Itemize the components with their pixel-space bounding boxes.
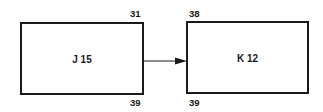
- arrow-j-to-k: [0, 0, 323, 112]
- arrowhead-icon: [175, 58, 187, 65]
